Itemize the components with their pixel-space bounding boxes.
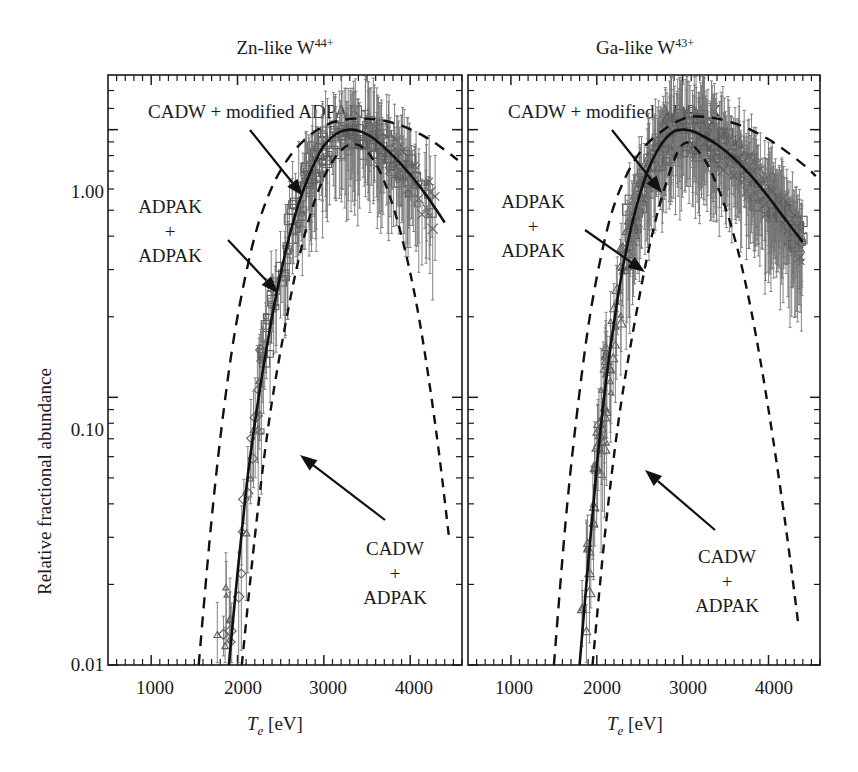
- annotation-arrow-line-5: [658, 481, 715, 530]
- plot-canvas: [0, 0, 858, 772]
- curve-cadw-adpak: [242, 144, 449, 665]
- annotation-arrow-line-1: [228, 240, 266, 281]
- right-panel-data-points: [577, 76, 807, 663]
- left-panel-data-points: [214, 76, 439, 663]
- figure-container: Zn-like W44+ Ga-like W43+ Relative fract…: [0, 0, 858, 772]
- annotation-arrow-head-2: [300, 455, 318, 471]
- annotation-arrow-line-2: [314, 465, 386, 520]
- annotation-arrow-line-0: [250, 130, 292, 183]
